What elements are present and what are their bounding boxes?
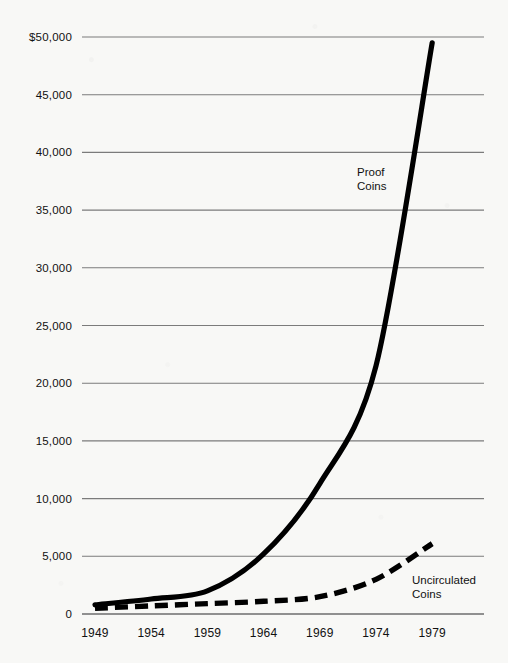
y-axis-tick-label: 20,000 — [36, 377, 72, 389]
chart-container: $50,00045,00040,00035,00030,00025,00020,… — [0, 0, 508, 663]
y-axis-tick-label: 35,000 — [36, 204, 72, 216]
y-axis-tick-label: $50,000 — [29, 31, 72, 43]
x-axis-tick-label: 1964 — [250, 626, 278, 640]
annotation-proof-coins-line1: Proof — [357, 166, 385, 178]
y-axis-tick-label: 30,000 — [36, 262, 72, 274]
x-axis-tick-label: 1959 — [194, 626, 222, 640]
x-axis-tick-label: 1949 — [81, 626, 109, 640]
y-axis-tick-label: 10,000 — [36, 493, 72, 505]
y-axis-tick-label: 40,000 — [36, 146, 72, 158]
x-axis-tick-label: 1974 — [362, 626, 390, 640]
y-axis-tick-label: 0 — [65, 608, 72, 620]
annotation-proof-coins-line2: Coins — [357, 180, 387, 192]
annotation-uncirculated-coins-line1: Uncirculated — [412, 574, 476, 586]
annotation-uncirculated-coins-line2: Coins — [412, 588, 442, 600]
line-chart: $50,00045,00040,00035,00030,00025,00020,… — [0, 0, 508, 663]
x-axis-tick-label: 1969 — [306, 626, 334, 640]
x-axis-tick-label: 1954 — [137, 626, 165, 640]
y-axis-tick-label: 15,000 — [36, 435, 72, 447]
y-axis-tick-label: 45,000 — [36, 89, 72, 101]
y-axis-tick-label: 5,000 — [42, 550, 72, 562]
x-axis-tick-label: 1979 — [418, 626, 446, 640]
y-axis-tick-label: 25,000 — [36, 320, 72, 332]
